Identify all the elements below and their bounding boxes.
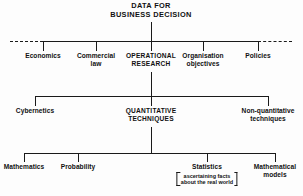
connector-level1-stub-2 bbox=[96, 41, 97, 51]
connector-level1-stub-1 bbox=[43, 41, 44, 51]
node-root: DATA FOR BUSINESS DECISION bbox=[110, 2, 192, 19]
connector-level1-dashed-right bbox=[258, 41, 292, 42]
node-operational-research-line1: OPERATIONAL bbox=[126, 52, 176, 59]
node-mathematical-models-line2: models bbox=[254, 171, 296, 179]
node-statistics: Statistics bbox=[192, 163, 222, 171]
connector-level1-stub-4 bbox=[203, 41, 204, 51]
connector-level3-stub-2 bbox=[78, 153, 79, 162]
node-non-quantitative-techniques: Non-quantitative techniques bbox=[242, 107, 295, 123]
connector-level2-stub-2 bbox=[151, 96, 152, 106]
node-economics: Economics bbox=[25, 52, 61, 60]
node-mathematical-models: Mathematical models bbox=[254, 163, 296, 179]
connector-level3-stub-4 bbox=[275, 153, 276, 162]
connector-level1-dashed-left bbox=[10, 41, 43, 42]
node-statistics-line1: Statistics bbox=[192, 163, 222, 170]
node-commercial-law: Commercial law bbox=[77, 52, 115, 68]
connector-operational-research-stem bbox=[151, 72, 152, 96]
node-policies-line1: Policies bbox=[245, 52, 270, 59]
node-mathematical-models-line1: Mathematical bbox=[254, 163, 296, 170]
node-economics-line1: Economics bbox=[25, 52, 61, 59]
node-probability-line1: Probability bbox=[61, 163, 96, 170]
node-cybernetics-line1: Cybernetics bbox=[16, 107, 54, 114]
node-root-line2: BUSINESS DECISION bbox=[110, 11, 192, 20]
node-commercial-law-line2: law bbox=[77, 60, 115, 68]
node-organisation-objectives-line2: objectives bbox=[182, 60, 223, 68]
node-organisation-objectives: Organisation objectives bbox=[182, 52, 223, 68]
node-non-quantitative-techniques-line1: Non-quantitative bbox=[242, 107, 295, 114]
org-chart-diagram: DATA FOR BUSINESS DECISION Economics Com… bbox=[0, 0, 303, 196]
node-quantitative-techniques-line1: QUANTITATIVE bbox=[126, 107, 177, 114]
node-operational-research: OPERATIONAL RESEARCH bbox=[126, 52, 176, 68]
connector-level3-bar bbox=[24, 153, 275, 154]
connector-level1-stub-5 bbox=[258, 41, 259, 51]
connector-root-stem bbox=[151, 22, 152, 41]
connector-level3-stub-3 bbox=[207, 153, 208, 162]
node-mathematics-line1: Mathematics bbox=[4, 163, 45, 170]
node-mathematics: Mathematics bbox=[4, 163, 45, 171]
connector-level2-stub-1 bbox=[35, 96, 36, 106]
node-root-line1: DATA FOR bbox=[131, 1, 171, 10]
connector-level1-stub-3 bbox=[151, 41, 152, 51]
node-cybernetics: Cybernetics bbox=[16, 107, 54, 115]
bracket-right bbox=[234, 172, 238, 186]
node-commercial-law-line1: Commercial bbox=[77, 52, 115, 59]
node-operational-research-line2: RESEARCH bbox=[126, 60, 176, 68]
connector-quantitative-techniques-stem bbox=[151, 127, 152, 153]
connector-level3-stub-1 bbox=[24, 153, 25, 162]
node-non-quantitative-techniques-line2: techniques bbox=[242, 115, 295, 123]
connector-level2-stub-3 bbox=[268, 96, 269, 106]
statistics-annotation-line1: ascertaining facts bbox=[181, 173, 233, 180]
statistics-annotation-line2: about the real world bbox=[181, 179, 233, 186]
node-probability: Probability bbox=[61, 163, 96, 171]
statistics-annotation-text: ascertaining facts about the real world bbox=[180, 172, 234, 186]
statistics-annotation: ascertaining facts about the real world bbox=[176, 172, 237, 186]
node-organisation-objectives-line1: Organisation bbox=[182, 52, 223, 59]
node-policies: Policies bbox=[245, 52, 270, 60]
node-quantitative-techniques: QUANTITATIVE TECHNIQUES bbox=[126, 107, 177, 123]
node-quantitative-techniques-line2: TECHNIQUES bbox=[126, 115, 177, 123]
